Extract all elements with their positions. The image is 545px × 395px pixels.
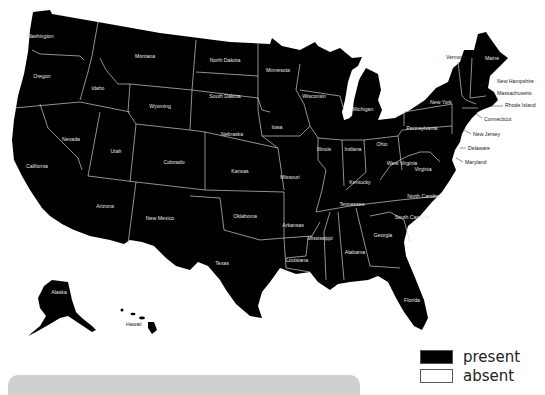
label-new-mexico: New Mexico (146, 215, 174, 221)
legend-item-absent: absent (420, 366, 520, 385)
label-missouri: Missouri (280, 174, 299, 180)
label-maryland: Maryland (465, 159, 486, 165)
label-nebraska: Nebraska (221, 131, 243, 137)
label-texas: Texas (215, 260, 229, 266)
label-nevada: Nevada (62, 136, 80, 142)
label-hawaii: Hawaii (126, 321, 142, 327)
label-tennessee: Tennessee (339, 201, 364, 207)
label-ohio: Ohio (377, 141, 388, 147)
label-delaware: Delaware (468, 145, 490, 151)
label-alabama: Alabama (345, 249, 366, 255)
label-california: California (26, 163, 48, 169)
legend-item-present: present (420, 347, 520, 366)
label-georgia: Georgia (374, 232, 393, 238)
label-idaho: Idaho (92, 85, 105, 91)
label-south-dakota: South Dakota (209, 93, 241, 99)
label-iowa: Iowa (272, 124, 283, 130)
label-wisconsin: Wisconsin (302, 93, 326, 99)
label-pennsylvania: Pennsylvania (407, 125, 438, 131)
legend-label-absent: absent (463, 367, 514, 385)
legend: present absent (420, 347, 520, 385)
label-kentucky: Kentucky (349, 179, 371, 185)
label-colorado: Colorado (163, 159, 184, 165)
label-west-virginia: West Virginia (387, 160, 417, 166)
label-north-carolina: North Carolina (407, 193, 441, 199)
label-connecticut: Connecticut (484, 116, 512, 122)
label-virginia: Virginia (414, 166, 431, 172)
legend-swatch-absent (420, 369, 453, 383)
label-new-york: New York (430, 99, 452, 105)
label-oregon: Oregon (33, 73, 50, 79)
label-kansas: Kansas (231, 168, 249, 174)
label-new-hampshire: New Hampshire (497, 78, 534, 84)
label-montana: Montana (135, 53, 155, 59)
bottom-panel-edge (8, 375, 360, 395)
label-vermont: Vermont (446, 54, 466, 60)
legend-label-present: present (463, 348, 520, 366)
legend-swatch-present (420, 350, 453, 364)
label-oklahoma: Oklahoma (233, 213, 257, 219)
label-arizona: Arizona (96, 203, 114, 209)
label-indiana: Indiana (344, 146, 361, 152)
label-wyoming: Wyoming (149, 103, 171, 109)
label-minnesota: Minnesota (266, 67, 290, 73)
label-louisiana: Louisiana (286, 257, 308, 263)
label-florida: Florida (404, 297, 420, 303)
label-washington: Washington (26, 33, 53, 39)
contiguous-us-shape (12, 10, 508, 330)
label-arkansas: Arkansas (282, 222, 304, 228)
label-utah: Utah (111, 148, 122, 154)
label-north-dakota: North Dakota (210, 57, 241, 63)
label-south-carolina: South Carolina (395, 214, 429, 220)
label-rhode-island: Rhode Island (505, 102, 536, 108)
label-massachusetts: Massachusetts (497, 90, 532, 96)
label-alaska: Alaska (51, 289, 67, 295)
label-illinois: Illinois (317, 146, 332, 152)
label-new-jersey: New Jersey (473, 131, 501, 137)
label-michigan: Michigan (353, 106, 374, 112)
label-mississippi: Mississippi (307, 235, 332, 241)
label-maine: Maine (485, 55, 499, 61)
